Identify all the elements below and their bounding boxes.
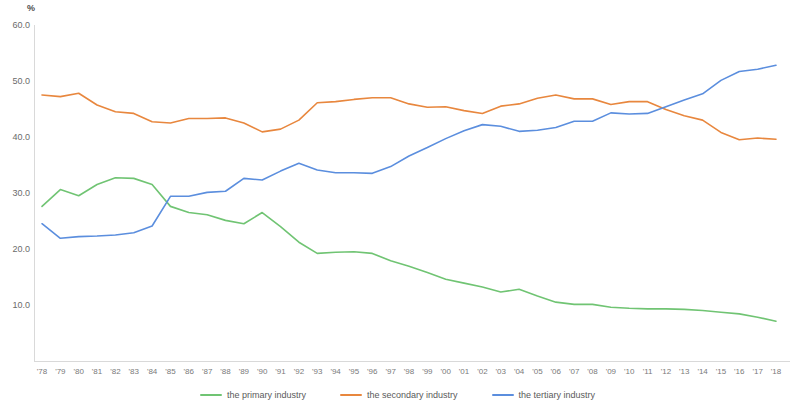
- legend-color-swatch-icon: [200, 394, 222, 396]
- series-line: [42, 65, 776, 238]
- legend-color-swatch-icon: [492, 394, 514, 396]
- legend-label: the primary industry: [227, 390, 306, 400]
- legend-label: the tertiary industry: [519, 390, 596, 400]
- series-plot-area: [0, 0, 795, 410]
- series-line: [42, 93, 776, 139]
- legend-item[interactable]: the primary industry: [200, 390, 306, 400]
- series-line: [42, 178, 776, 321]
- line-chart: % 60.050.040.030.020.010.0 '78'79'80'81'…: [0, 0, 795, 410]
- legend-item[interactable]: the secondary industry: [340, 390, 458, 400]
- chart-legend: the primary industrythe secondary indust…: [0, 390, 795, 400]
- legend-item[interactable]: the tertiary industry: [492, 390, 596, 400]
- legend-label: the secondary industry: [367, 390, 458, 400]
- legend-color-swatch-icon: [340, 394, 362, 396]
